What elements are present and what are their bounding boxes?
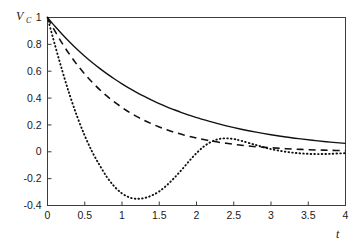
x-tick-label: 1 [119,209,125,221]
line-chart: 00.511.522.533.54 -0.4-0.200.20.40.60.81… [0,0,363,246]
y-tick-label: 0 [36,145,42,157]
y-tick-label: 0.4 [27,92,42,104]
y-tick-label: 0.8 [27,38,42,50]
x-tick-label: 2.5 [226,209,241,221]
y-tick-label: -0.2 [23,172,41,184]
x-axis-tick-labels: 00.511.522.533.54 [45,209,349,221]
y-tick-label: -0.4 [23,199,41,211]
x-tick-label: 3.5 [301,209,316,221]
x-tick-label: 0 [45,209,51,221]
y-axis-title-subscript: C [26,16,32,25]
x-tick-label: 3 [268,209,274,221]
chart-figure: 00.511.522.533.54 -0.4-0.200.20.40.60.81… [0,0,363,246]
y-tick-label: 1 [36,11,42,23]
y-tick-label: 0.2 [27,119,42,131]
y-tick-label: 0.6 [27,65,42,77]
x-tick-label: 1.5 [152,209,167,221]
x-tick-label: 0.5 [77,209,92,221]
x-tick-label: 4 [343,209,349,221]
x-tick-label: 2 [194,209,200,221]
